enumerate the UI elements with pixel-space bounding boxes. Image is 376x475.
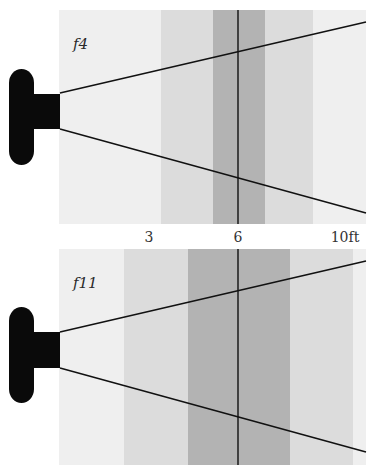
camera-icon <box>9 307 60 403</box>
camera-icon <box>9 69 60 165</box>
camera-body <box>9 69 34 165</box>
camera-lens <box>33 332 60 368</box>
distance-axis: 3610ft <box>145 229 360 245</box>
distance-tick-label: 3 <box>145 229 154 245</box>
depth-of-field-diagram: f4 3610ft f11 <box>0 0 376 475</box>
panel-f4: f4 <box>9 10 366 224</box>
distance-tick-label: 6 <box>234 229 243 245</box>
camera-lens <box>33 94 60 129</box>
distance-tick-label: 10ft <box>331 229 360 245</box>
aperture-label: f4 <box>72 35 88 53</box>
aperture-label: f11 <box>72 274 98 292</box>
panel-f11: f11 <box>9 249 366 465</box>
camera-body <box>9 307 34 403</box>
sharp-focus-zone <box>213 10 265 224</box>
sharp-focus-zone <box>188 249 290 465</box>
